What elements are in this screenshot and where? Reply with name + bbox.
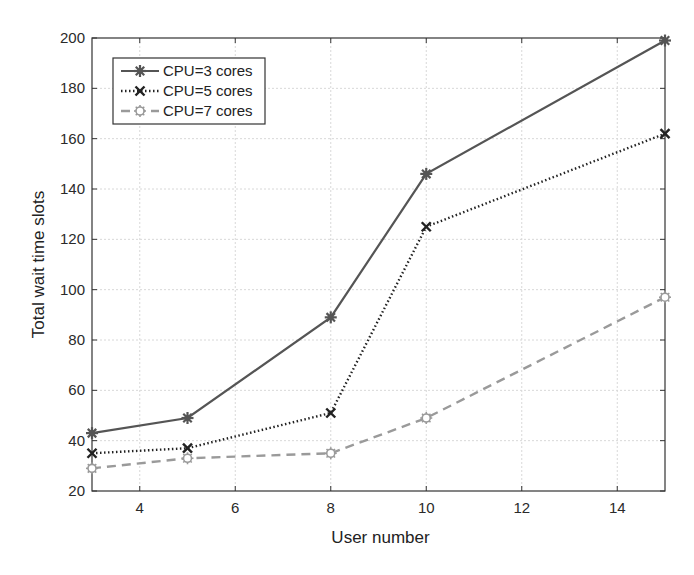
y-tick-label: 100 — [60, 281, 85, 298]
x-axis-label: User number — [331, 528, 430, 547]
x-tick-label: 6 — [231, 499, 239, 516]
y-tick-label: 20 — [68, 482, 85, 499]
x-tick-label: 8 — [327, 499, 335, 516]
y-tick-label: 120 — [60, 230, 85, 247]
legend-label: CPU=3 cores — [163, 62, 253, 79]
data-point — [182, 412, 194, 424]
legend: CPU=3 coresCPU=5 coresCPU=7 cores — [113, 58, 265, 124]
y-tick-label: 160 — [60, 130, 85, 147]
legend-marker — [134, 65, 146, 77]
legend-marker — [134, 105, 146, 117]
data-point — [659, 35, 671, 47]
x-tick-label: 12 — [513, 499, 530, 516]
data-point — [420, 412, 432, 424]
y-tick-label: 200 — [60, 29, 85, 46]
data-point — [325, 311, 337, 323]
x-tick-label: 10 — [418, 499, 435, 516]
series-cpu-5-cores — [88, 129, 670, 458]
data-point — [420, 168, 432, 180]
y-tick-label: 60 — [68, 381, 85, 398]
y-axis-label: Total wait time slots — [29, 191, 48, 338]
data-point — [182, 452, 194, 464]
data-point — [86, 427, 98, 439]
x-tick-label: 4 — [136, 499, 144, 516]
legend-label: CPU=5 cores — [163, 82, 253, 99]
data-point — [86, 462, 98, 474]
x-tick-label: 14 — [609, 499, 626, 516]
y-tick-label: 40 — [68, 432, 85, 449]
series-line — [92, 134, 665, 454]
legend-label: CPU=7 cores — [163, 102, 253, 119]
y-tick-label: 180 — [60, 79, 85, 96]
y-tick-label: 80 — [68, 331, 85, 348]
data-point — [325, 447, 337, 459]
series-line — [92, 297, 665, 468]
data-point — [659, 291, 671, 303]
y-tick-label: 140 — [60, 180, 85, 197]
line-chart: 46810121420406080100120140160180200 CPU=… — [0, 0, 694, 575]
